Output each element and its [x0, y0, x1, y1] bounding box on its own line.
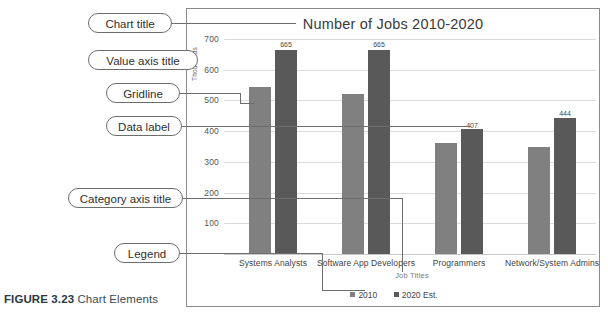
callout-chart-title: Chart title	[88, 13, 172, 33]
bar-2010-network-system-admins[interactable]	[528, 147, 550, 254]
value-axis-baseline	[224, 254, 596, 255]
bar-2020-systems-analysts[interactable]	[275, 50, 297, 254]
legend-label-2010: 2010	[358, 290, 377, 300]
bar-2010-software-app-developers[interactable]	[342, 94, 364, 254]
figure-caption-text: Chart Elements	[77, 293, 158, 305]
figure-caption: FIGURE 3.23 Chart Elements	[4, 293, 158, 305]
callout-gridline: Gridline	[106, 83, 180, 103]
category-label-systems-analysts: Systems Analysts	[239, 258, 307, 268]
category-label-software-app-developers: Software App Developers	[317, 258, 415, 268]
chart-container[interactable]: Number of Jobs 2010-2020 Thousands 700 6…	[186, 8, 600, 307]
callout-value-axis-title: Value axis title	[88, 50, 198, 70]
leader-chart-title	[172, 23, 296, 24]
ytick-label: 500	[204, 95, 219, 105]
ytick-label: 300	[204, 157, 219, 167]
chart-legend[interactable]: 2010 2020 Est.	[187, 290, 601, 300]
ytick-label: 100	[204, 218, 219, 228]
figure-caption-label: FIGURE 3.23	[4, 293, 74, 305]
ytick-label: 400	[204, 126, 219, 136]
callout-category-axis-title: Category axis title	[68, 188, 183, 208]
callout-data-label: Data label	[106, 116, 182, 136]
leader-legend-v	[322, 253, 323, 291]
leader-gridline-h2	[240, 103, 254, 104]
bar-2010-programmers[interactable]	[435, 143, 457, 255]
leader-legend-h1	[180, 253, 323, 254]
ytick-label: 700	[204, 34, 219, 44]
leader-cat-axis-h	[183, 198, 403, 199]
bar-2020-programmers[interactable]	[461, 129, 483, 254]
legend-item-2020[interactable]: 2020 Est.	[394, 290, 438, 300]
data-label-2020-software-app-developers: 665	[373, 41, 385, 48]
leader-cat-axis-v	[402, 198, 403, 272]
plot-area: 700 600 500 400 300 200 100	[224, 39, 596, 254]
data-label-2020-network-system-admins: 444	[559, 110, 571, 117]
figure-page: Chart title Value axis title Gridline Da…	[0, 0, 608, 322]
legend-label-2020: 2020 Est.	[402, 290, 438, 300]
category-axis-title: Job Titles	[395, 271, 429, 280]
ytick-label: 200	[204, 188, 219, 198]
chart-title: Number of Jobs 2010-2020	[187, 16, 599, 32]
bar-2020-software-app-developers[interactable]	[368, 50, 390, 254]
category-label-programmers: Programmers	[433, 258, 486, 268]
bar-2010-systems-analysts[interactable]	[249, 87, 271, 254]
legend-swatch-icon	[394, 292, 399, 297]
leader-legend-h2	[322, 290, 365, 291]
leader-gridline-h1	[180, 93, 240, 94]
gridline-700: 700	[224, 39, 596, 40]
data-label-2020-systems-analysts: 665	[280, 41, 292, 48]
legend-swatch-icon	[350, 292, 355, 297]
legend-item-2010[interactable]: 2010	[350, 290, 377, 300]
bar-2020-network-system-admins[interactable]	[554, 118, 576, 254]
category-label-network-system-admins: Network/System Admins	[505, 258, 599, 268]
callout-legend: Legend	[114, 243, 180, 263]
ytick-label: 600	[204, 65, 219, 75]
leader-data-label	[182, 126, 471, 127]
